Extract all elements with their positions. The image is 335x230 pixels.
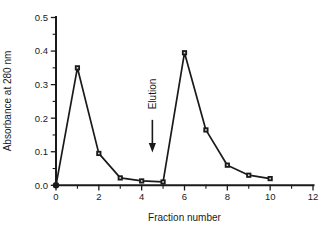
- elution-profile-chart: 0246810120.00.10.20.30.40.5 Absorbance a…: [0, 0, 335, 230]
- x-tick-label: 0: [53, 191, 58, 202]
- data-point-marker-center: [205, 129, 207, 131]
- x-tick-label: 12: [308, 191, 319, 202]
- x-axis-title: Fraction number: [148, 212, 221, 223]
- elution-annotation-label: Elution: [147, 79, 158, 110]
- data-point-marker-center: [184, 52, 186, 54]
- data-point-marker-center: [162, 181, 164, 183]
- absorbance-series-line: [56, 53, 270, 186]
- y-tick-label: 0.5: [35, 12, 48, 23]
- y-tick-label: 0.0: [35, 180, 48, 191]
- data-point-marker-center: [98, 153, 100, 155]
- chart-canvas: 0246810120.00.10.20.30.40.5 Absorbance a…: [0, 0, 335, 230]
- y-axis-title: Absorbance at 280 nm: [2, 51, 13, 152]
- y-tick-label: 0.2: [35, 113, 48, 124]
- data-point-marker-center: [141, 180, 143, 182]
- x-tick-label: 6: [182, 191, 187, 202]
- y-tick-label: 0.1: [35, 146, 48, 157]
- data-point-marker-center: [227, 164, 229, 166]
- y-tick-label: 0.3: [35, 79, 48, 90]
- data-point-marker-center: [269, 178, 271, 180]
- x-tick-label: 2: [96, 191, 101, 202]
- data-point-marker-center: [119, 177, 121, 179]
- y-tick-label: 0.4: [35, 45, 48, 56]
- elution-arrow-head: [149, 143, 156, 153]
- data-point-dot: [53, 182, 59, 188]
- x-tick-label: 4: [139, 191, 144, 202]
- data-point-marker-center: [248, 174, 250, 176]
- x-tick-label: 8: [225, 191, 230, 202]
- x-tick-label: 10: [265, 191, 276, 202]
- data-point-marker-center: [77, 67, 79, 69]
